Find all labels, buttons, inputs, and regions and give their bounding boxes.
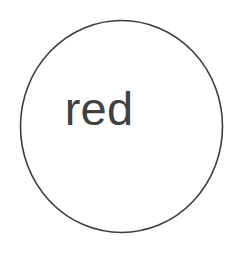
diagram-canvas: red (0, 0, 241, 253)
circle-node-label: red (59, 85, 139, 132)
